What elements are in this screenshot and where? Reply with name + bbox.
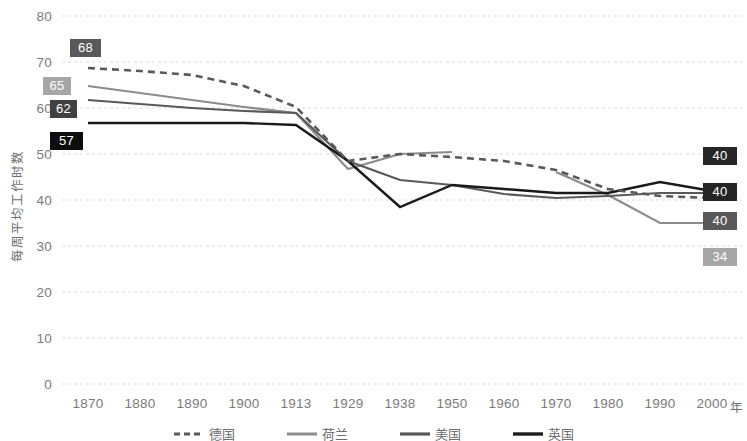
x-tick-1950: 1950 [424, 396, 480, 411]
data-label-end-usa: 40 [703, 212, 737, 230]
x-tick-1970: 1970 [528, 396, 584, 411]
legend-label-netherlands: 荷兰 [322, 424, 348, 441]
data-label-start-usa: 62 [50, 100, 77, 118]
data-label-end-uk: 40 [703, 183, 737, 201]
data-label-start-netherlands: 65 [43, 77, 71, 95]
legend-line-solid-icon [287, 429, 317, 439]
x-axis-title: 年 [730, 397, 743, 416]
legend-line-dashed-icon [174, 429, 204, 439]
x-tick-1890: 1890 [164, 396, 220, 411]
x-tick-1960: 1960 [476, 396, 532, 411]
x-tick-1870: 1870 [60, 396, 116, 411]
legend-item-germany[interactable]: 德国 [174, 424, 235, 441]
chart-container: 每周平均工作时数 80 70 60 50 40 30 20 10 0 [0, 0, 747, 441]
x-tick-1929: 1929 [320, 396, 376, 411]
legend-label-uk: 英国 [548, 424, 574, 441]
legend-item-netherlands[interactable]: 荷兰 [287, 424, 348, 441]
plot-area [0, 0, 747, 441]
x-tick-1880: 1880 [112, 396, 168, 411]
x-tick-1980: 1980 [580, 396, 636, 411]
legend-line-solid-icon [400, 429, 430, 439]
legend-item-uk[interactable]: 英国 [513, 424, 574, 441]
data-label-start-uk: 57 [50, 132, 83, 150]
legend-label-usa: 美国 [435, 424, 461, 441]
legend-label-germany: 德国 [209, 424, 235, 441]
data-label-end-germany: 40 [703, 147, 737, 165]
x-tick-1900: 1900 [216, 396, 272, 411]
series-line-germany [88, 68, 712, 198]
series-line-usa [88, 100, 712, 198]
data-label-end-netherlands: 34 [703, 248, 737, 266]
chart-legend: 德国 荷兰 美国 英国 [0, 424, 747, 441]
x-tick-1938: 1938 [372, 396, 428, 411]
x-tick-1990: 1990 [632, 396, 688, 411]
gridlines [62, 16, 742, 384]
legend-line-solid-icon [513, 429, 543, 439]
legend-item-usa[interactable]: 美国 [400, 424, 461, 441]
x-tick-1913: 1913 [268, 396, 324, 411]
data-label-start-germany: 68 [70, 39, 101, 57]
